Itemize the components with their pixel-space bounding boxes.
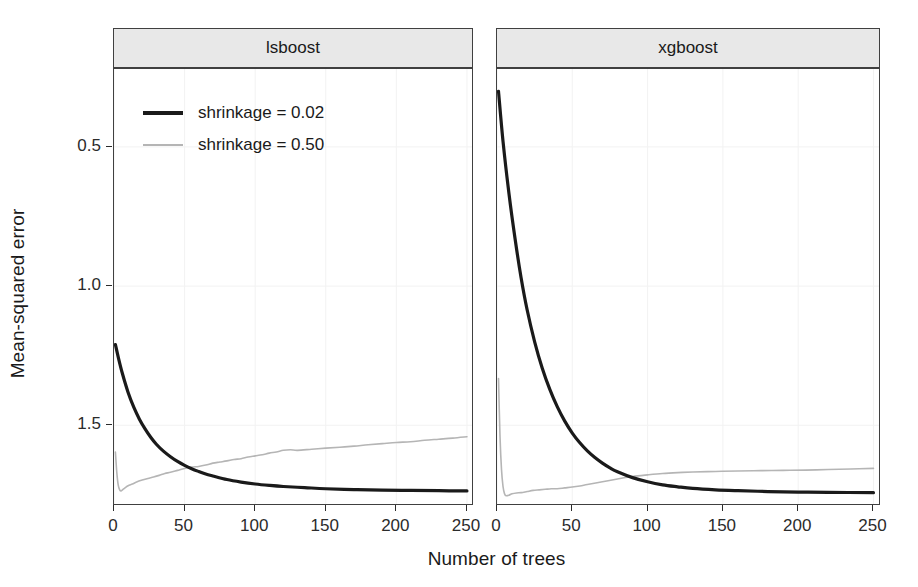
series-line	[499, 379, 874, 496]
y-axis-title: Mean-squared error	[0, 0, 36, 587]
legend-item: shrinkage = 0.50	[142, 135, 324, 155]
x-tick-label: 250	[452, 516, 480, 536]
legend-label: shrinkage = 0.50	[198, 135, 324, 155]
x-tick-label: 50	[562, 516, 581, 536]
facet-strip-xgboost: xgboost	[496, 28, 880, 68]
legend-line-icon	[142, 138, 184, 152]
y-tick-mark	[106, 285, 112, 286]
legend-item: shrinkage = 0.02	[142, 103, 324, 123]
y-tick-label: 0.5	[55, 136, 101, 156]
x-tick-label: 200	[783, 516, 811, 536]
x-tick-label: 0	[108, 516, 117, 536]
x-tick-label: 250	[858, 516, 886, 536]
facet-strip-label: xgboost	[658, 38, 718, 58]
x-tick-mark	[113, 505, 114, 511]
series-line	[499, 91, 874, 492]
facet-strip-lsboost: lsboost	[113, 28, 473, 68]
x-tick-mark	[184, 505, 185, 511]
x-tick-mark	[496, 505, 497, 511]
x-tick-label: 150	[311, 516, 339, 536]
x-tick-label: 100	[632, 516, 660, 536]
legend-line-icon	[142, 106, 184, 120]
x-tick-mark	[872, 505, 873, 511]
x-tick-mark	[254, 505, 255, 511]
x-tick-mark	[571, 505, 572, 511]
series-line	[115, 345, 467, 491]
x-axis-title: Number of trees	[113, 548, 880, 570]
x-tick-mark	[325, 505, 326, 511]
chart-legend: shrinkage = 0.02shrinkage = 0.50	[142, 103, 324, 155]
x-tick-label: 150	[708, 516, 736, 536]
chart-figure: Mean-squared error 1.51.00.5 05010015020…	[0, 0, 918, 587]
y-tick-label: 1.5	[55, 414, 101, 434]
x-tick-mark	[722, 505, 723, 511]
y-tick-label: 1.0	[55, 275, 101, 295]
y-tick-mark	[106, 424, 112, 425]
x-tick-mark	[797, 505, 798, 511]
legend-label: shrinkage = 0.02	[198, 103, 324, 123]
y-tick-mark	[106, 146, 112, 147]
x-tick-mark	[647, 505, 648, 511]
x-tick-mark	[395, 505, 396, 511]
panel-gridlines	[497, 69, 880, 505]
x-tick-label: 0	[491, 516, 500, 536]
x-tick-mark	[466, 505, 467, 511]
x-tick-label: 100	[240, 516, 268, 536]
x-tick-label: 50	[174, 516, 193, 536]
series-line	[115, 437, 467, 491]
plot-panel-xgboost	[496, 68, 880, 505]
facet-strip-label: lsboost	[266, 38, 320, 58]
x-tick-label: 200	[381, 516, 409, 536]
